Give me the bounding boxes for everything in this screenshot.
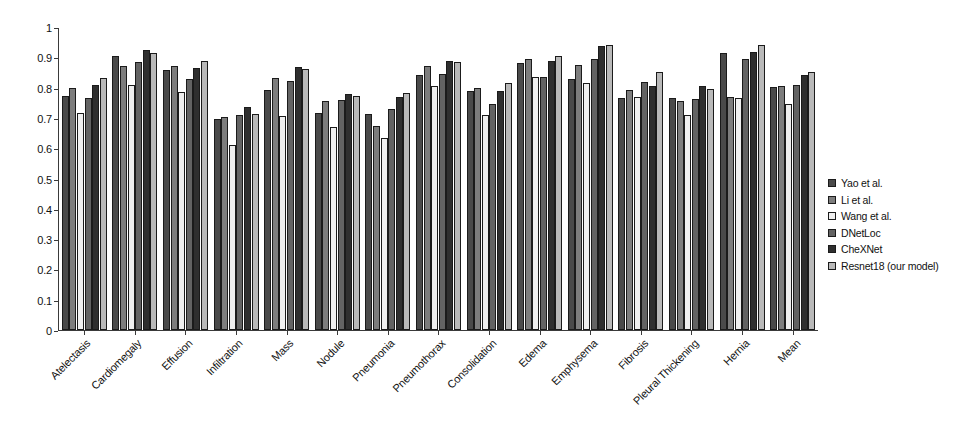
bar [778, 86, 785, 330]
legend-item: DNetLoc [828, 226, 978, 240]
bar-group [160, 28, 211, 330]
bar [315, 113, 322, 330]
bar [482, 115, 489, 330]
bar [649, 86, 656, 330]
bar [373, 126, 380, 330]
bar [454, 62, 461, 330]
legend-item: CheXNet [828, 242, 978, 256]
y-axis-tick-mark [54, 240, 58, 241]
bar-group [666, 28, 717, 330]
bar [416, 75, 423, 330]
bar [626, 90, 633, 330]
bar-chart: 00.10.20.30.40.50.60.70.80.91 Atelectasi… [0, 0, 980, 429]
bar [120, 66, 127, 330]
legend-label: Li et al. [841, 194, 873, 206]
bar-group [110, 28, 161, 330]
x-axis-label-cell: Consolidation [464, 331, 515, 426]
bar [135, 62, 142, 330]
bar [525, 59, 532, 330]
bar [150, 53, 157, 330]
bar [295, 67, 302, 330]
bar [279, 116, 286, 330]
bar [171, 66, 178, 330]
legend-swatch [828, 229, 836, 237]
bar [302, 69, 309, 330]
x-axis-tick-label: Atelectasis [48, 337, 93, 382]
y-axis-tick-mark [54, 180, 58, 181]
bar [85, 98, 92, 330]
bar [143, 50, 150, 330]
bar [497, 91, 504, 330]
bar [214, 119, 221, 330]
legend-swatch [828, 196, 836, 204]
bar [583, 83, 590, 330]
bar [221, 117, 228, 330]
legend-item: Resnet18 (our model) [828, 259, 978, 273]
bar [163, 70, 170, 330]
x-axis-label-cell: Cardiomegaly [110, 331, 161, 426]
bar [77, 113, 84, 330]
bar [439, 74, 446, 330]
bar [489, 104, 496, 330]
bar-group [413, 28, 464, 330]
y-axis-tick-mark [54, 58, 58, 59]
bar [403, 93, 410, 330]
bar [699, 86, 706, 330]
legend-swatch [828, 179, 836, 187]
legend-item: Li et al. [828, 193, 978, 207]
bar [244, 107, 251, 330]
bar [548, 61, 555, 330]
x-axis-label-cell: Pleural Thickening [667, 331, 718, 426]
bar-groups [59, 28, 818, 330]
y-axis-tick-mark [54, 270, 58, 271]
bar [272, 78, 279, 330]
legend-item: Yao et al. [828, 176, 978, 190]
bar [388, 109, 395, 330]
bar [591, 59, 598, 330]
y-axis-tick-mark [54, 119, 58, 120]
bar [128, 85, 135, 330]
y-axis-tick-mark [54, 301, 58, 302]
bar [750, 52, 757, 330]
legend-label: Wang et al. [841, 210, 892, 222]
bar [178, 92, 185, 330]
bar [808, 72, 815, 330]
bar [669, 98, 676, 330]
bar [785, 104, 792, 330]
x-axis-tick-label: Mass [269, 337, 296, 364]
bar [62, 96, 69, 330]
y-axis-tick-mark [54, 149, 58, 150]
bar [345, 94, 352, 330]
bar [575, 65, 582, 330]
bar [692, 99, 699, 330]
y-axis-tick-mark [54, 210, 58, 211]
bar-group [717, 28, 768, 330]
bar [555, 56, 562, 330]
legend-label: Resnet18 (our model) [841, 260, 939, 272]
plot-area: 00.10.20.30.40.50.60.70.80.91 [58, 28, 818, 331]
bar [92, 85, 99, 330]
bar-group [464, 28, 515, 330]
bar [353, 96, 360, 330]
bar [186, 79, 193, 330]
bar [793, 85, 800, 330]
bar [100, 78, 107, 330]
bar [446, 61, 453, 330]
x-axis-labels: AtelectasisCardiomegalyEffusionInfiltrat… [59, 331, 819, 426]
bar [677, 101, 684, 330]
bar [656, 72, 663, 330]
x-axis-label-cell: Mean [768, 331, 819, 426]
y-axis-tick-mark [54, 331, 58, 332]
x-axis-label-cell: Emphysema [566, 331, 617, 426]
bar-group [767, 28, 818, 330]
legend-swatch [828, 245, 836, 253]
bar [201, 61, 208, 330]
x-axis-tick-label: Fibrosis [616, 337, 651, 372]
bar [396, 97, 403, 330]
bar [606, 45, 613, 330]
legend-label: Yao et al. [841, 177, 883, 189]
bar [641, 82, 648, 330]
bar [758, 45, 765, 330]
x-axis-tick-label: Nodule [314, 337, 346, 369]
bar [720, 53, 727, 330]
